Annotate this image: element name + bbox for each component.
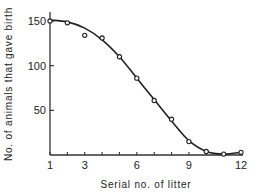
fitted-curve — [50, 20, 241, 154]
y-tick-label: 100 — [28, 60, 46, 72]
data-point — [169, 117, 173, 121]
data-point — [100, 36, 104, 40]
x-tick-label: 9 — [186, 159, 192, 171]
y-tick-label: 150 — [28, 15, 46, 27]
data-point — [187, 140, 191, 144]
data-point — [65, 21, 69, 25]
data-points — [48, 19, 243, 156]
data-point — [117, 55, 121, 59]
x-tick-label: 3 — [82, 159, 88, 171]
x-tick-label: 6 — [134, 159, 140, 171]
data-point — [48, 19, 52, 23]
y-axis-title: No. of animals that gave birth — [3, 7, 14, 161]
line-chart: 50100150 136912 Serial no. of litter No.… — [0, 0, 256, 196]
y-tick-label: 50 — [34, 104, 46, 116]
x-tick-label: 1 — [47, 159, 53, 171]
x-tick-label: 12 — [235, 159, 247, 171]
data-point — [152, 98, 156, 102]
axes — [50, 12, 243, 155]
data-point — [222, 152, 226, 156]
data-point — [83, 33, 87, 37]
x-axis-title: Serial no. of litter — [100, 179, 191, 190]
data-point — [239, 150, 243, 154]
data-point — [135, 76, 139, 80]
data-point — [204, 149, 208, 153]
